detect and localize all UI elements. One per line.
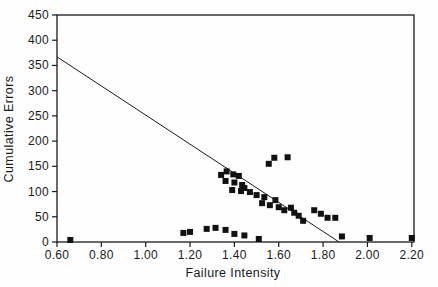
x-tick-label: 2.20	[400, 248, 425, 262]
data-point	[285, 154, 291, 160]
data-point	[238, 188, 244, 194]
data-point	[204, 226, 210, 232]
data-point	[339, 233, 345, 239]
data-point	[254, 192, 260, 198]
data-point	[213, 225, 219, 231]
data-point	[276, 204, 282, 210]
y-tick-label: 400	[28, 33, 49, 47]
data-point	[318, 211, 324, 217]
data-point	[409, 235, 415, 241]
data-point	[300, 218, 306, 224]
y-tick-label: 250	[28, 109, 49, 123]
data-point	[236, 173, 242, 179]
x-tick-label: 1.00	[133, 248, 158, 262]
y-tick-label: 0	[42, 235, 49, 249]
scatter-chart: 0501001502002503003504004500.600.801.001…	[0, 0, 438, 287]
x-tick-label: 0.60	[45, 248, 70, 262]
data-point	[247, 189, 253, 195]
x-tick-label: 1.60	[266, 248, 291, 262]
data-point	[230, 171, 236, 177]
y-tick-label: 100	[28, 185, 49, 199]
scatter-plot-figure: 0501001502002503003504004500.600.801.001…	[0, 0, 438, 287]
data-point	[272, 197, 278, 203]
data-point	[67, 237, 73, 243]
y-tick-label: 350	[28, 58, 49, 72]
data-point	[267, 202, 273, 208]
x-tick-label: 2.00	[355, 248, 380, 262]
data-point	[223, 227, 229, 233]
data-point	[367, 235, 373, 241]
data-point	[311, 207, 317, 213]
y-tick-label: 450	[28, 8, 49, 22]
y-tick-label: 150	[28, 159, 49, 173]
data-point	[180, 230, 186, 236]
data-point	[325, 215, 331, 221]
y-axis-title: Cumulative Errors	[2, 76, 16, 183]
plot-border	[57, 15, 414, 242]
data-point	[256, 236, 262, 242]
x-tick-label: 0.80	[89, 248, 114, 262]
y-tick-label: 300	[28, 84, 49, 98]
data-point	[229, 187, 235, 193]
data-point	[241, 232, 247, 238]
data-point	[231, 231, 237, 237]
data-point	[259, 200, 265, 206]
data-point	[266, 161, 272, 167]
x-tick-label: 1.80	[311, 248, 336, 262]
data-point	[218, 172, 224, 178]
data-point	[224, 168, 230, 174]
y-tick-label: 50	[35, 210, 49, 224]
x-tick-label: 1.40	[222, 248, 247, 262]
x-axis-title: Failure Intensity	[185, 266, 280, 280]
data-point	[187, 229, 193, 235]
data-point	[223, 178, 229, 184]
data-point	[271, 155, 277, 161]
data-point	[332, 215, 338, 221]
data-point	[231, 179, 237, 185]
data-point	[281, 207, 287, 213]
data-point	[261, 194, 267, 200]
chart-layer: 0501001502002503003504004500.600.801.001…	[28, 8, 424, 262]
y-tick-label: 200	[28, 134, 49, 148]
x-tick-label: 1.20	[178, 248, 203, 262]
